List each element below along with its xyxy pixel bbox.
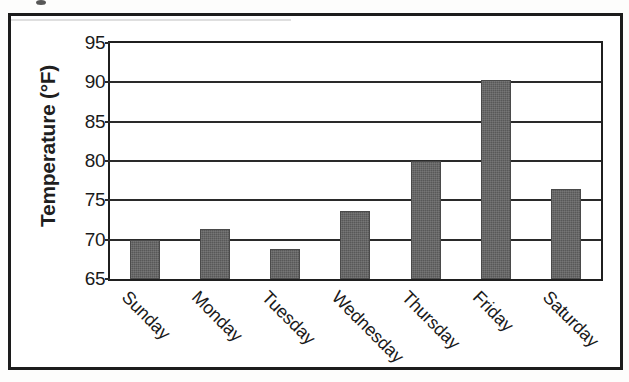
y-tick-label: 85: [85, 110, 105, 132]
x-tick-label: Wednesday: [327, 287, 408, 368]
bar[interactable]: [411, 161, 441, 279]
bar[interactable]: [340, 211, 370, 279]
bar[interactable]: [270, 249, 300, 279]
scan-artifact-speck: [36, 0, 46, 5]
bar-slot: [250, 43, 320, 279]
y-axis-title: Temperature (°F): [36, 21, 60, 271]
x-tick-label: Sunday: [117, 287, 174, 344]
x-tick-label: Saturday: [538, 287, 603, 352]
bar-slot: [461, 43, 531, 279]
bar[interactable]: [200, 229, 230, 279]
y-tick-label: 90: [85, 71, 105, 93]
x-tick-label: Friday: [468, 287, 517, 336]
bar[interactable]: [481, 80, 511, 279]
bar[interactable]: [130, 240, 160, 279]
y-tick-label: 65: [85, 268, 105, 290]
x-tick-label: Monday: [187, 287, 246, 346]
y-tick-label: 95: [85, 32, 105, 54]
bars-layer: [110, 43, 601, 279]
x-tick-label: Thursday: [398, 287, 465, 354]
x-axis-labels: SundayMondayTuesdayWednesdayThursdayFrid…: [108, 281, 603, 376]
y-tick-label: 80: [85, 150, 105, 172]
bar-slot: [391, 43, 461, 279]
bar-slot: [320, 43, 390, 279]
plot-area: 65707580859095: [108, 41, 603, 281]
bar-slot: [531, 43, 601, 279]
bar[interactable]: [551, 189, 581, 279]
x-tick-label: Tuesday: [257, 287, 319, 349]
bar-slot: [110, 43, 180, 279]
y-tick-label: 70: [85, 228, 105, 250]
y-tick-label: 75: [85, 189, 105, 211]
figure-frame: Temperature (°F) 65707580859095 SundayMo…: [8, 13, 623, 370]
bar-slot: [180, 43, 250, 279]
bar-chart-screenshot: Temperature (°F) 65707580859095 SundayMo…: [0, 0, 629, 382]
